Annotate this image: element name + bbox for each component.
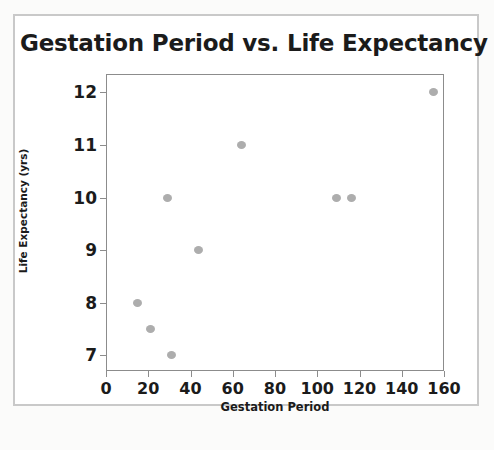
scatter-point <box>332 194 341 202</box>
y-axis-title: Life Expectancy (yrs) <box>17 126 29 296</box>
x-tick-mark <box>402 371 403 377</box>
y-tick-mark <box>100 92 106 93</box>
y-tick-label: 8 <box>57 293 97 313</box>
y-tick-label: 7 <box>57 345 97 365</box>
scatter-point <box>347 194 356 202</box>
scatter-point <box>133 299 142 307</box>
y-tick-mark <box>100 198 106 199</box>
scatter-point <box>146 325 155 333</box>
y-tick-mark <box>100 355 106 356</box>
y-tick-label: 10 <box>57 188 97 208</box>
x-tick-mark <box>360 371 361 377</box>
x-axis-title: Gestation Period <box>106 400 444 414</box>
scanned-page: Gestation Period vs. Life Expectancy 789… <box>0 0 494 450</box>
plot-area <box>106 74 444 371</box>
y-tick-mark <box>100 145 106 146</box>
scatter-point <box>163 194 172 202</box>
x-tick-mark <box>233 371 234 377</box>
x-tick-mark <box>444 371 445 377</box>
x-tick-mark <box>191 371 192 377</box>
scatter-point <box>237 141 246 149</box>
y-tick-label: 9 <box>57 240 97 260</box>
x-tick-mark <box>106 371 107 377</box>
x-tick-mark <box>148 371 149 377</box>
y-tick-mark <box>100 303 106 304</box>
y-tick-mark <box>100 250 106 251</box>
x-tick-mark <box>317 371 318 377</box>
y-tick-label: 11 <box>57 135 97 155</box>
x-tick-label: 160 <box>414 379 474 398</box>
x-tick-mark <box>275 371 276 377</box>
y-tick-label: 12 <box>57 82 97 102</box>
